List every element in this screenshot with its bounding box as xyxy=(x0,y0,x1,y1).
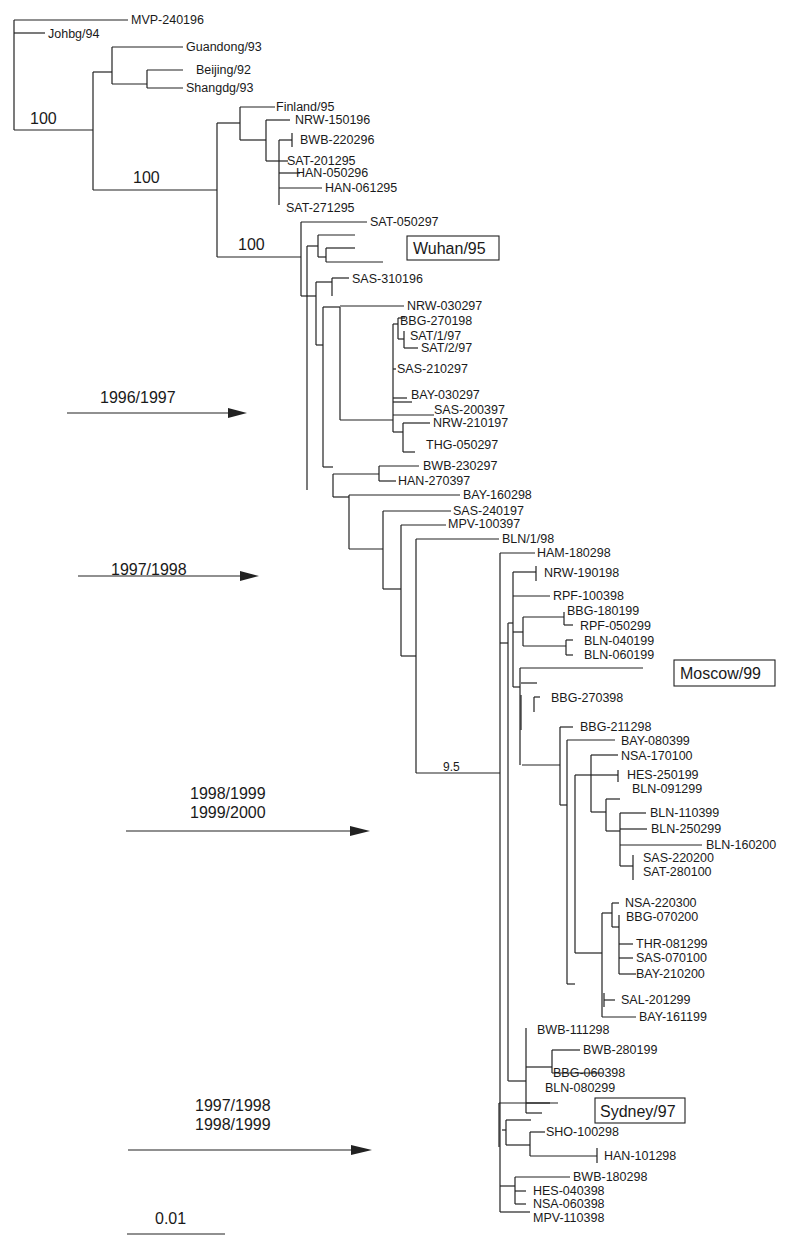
svg-text:BLN-080299: BLN-080299 xyxy=(545,1081,615,1095)
svg-text:Moscow/99: Moscow/99 xyxy=(680,665,761,682)
svg-text:BWB-220296: BWB-220296 xyxy=(300,133,374,147)
svg-text:Shangdg/93: Shangdg/93 xyxy=(186,81,253,95)
svg-text:BBG-180199: BBG-180199 xyxy=(567,604,639,618)
svg-text:BLN/1/98: BLN/1/98 xyxy=(502,532,554,546)
svg-text:BWB-230297: BWB-230297 xyxy=(423,459,497,473)
svg-text:BBG-070200: BBG-070200 xyxy=(626,910,698,924)
svg-text:SAS-220200: SAS-220200 xyxy=(643,851,714,865)
svg-text:BBG-270198: BBG-270198 xyxy=(400,314,472,328)
svg-text:BWB-111298: BWB-111298 xyxy=(537,1023,610,1037)
svg-text:BLN-091299: BLN-091299 xyxy=(632,782,702,796)
svg-text:SAL-201299: SAL-201299 xyxy=(621,993,691,1007)
svg-text:MPV-100397: MPV-100397 xyxy=(448,517,520,531)
svg-text:BLN-040199: BLN-040199 xyxy=(584,634,654,648)
season-arrow-1997-1998: 1997/1998 xyxy=(78,561,259,581)
svg-text:Sydney/97: Sydney/97 xyxy=(600,1103,676,1120)
svg-text:Guandong/93: Guandong/93 xyxy=(186,40,262,54)
svg-text:BWB-280199: BWB-280199 xyxy=(583,1043,657,1057)
svg-text:SAS-070100: SAS-070100 xyxy=(636,951,707,965)
svg-text:RPF-100398: RPF-100398 xyxy=(553,589,624,603)
svg-text:BBG-060398: BBG-060398 xyxy=(553,1066,625,1080)
svg-text:NSA-060398: NSA-060398 xyxy=(533,1197,605,1211)
svg-text:HES-040398: HES-040398 xyxy=(533,1184,605,1198)
svg-text:BAY-030297: BAY-030297 xyxy=(411,388,480,402)
svg-text:SAT-271295: SAT-271295 xyxy=(286,201,355,215)
svg-text:BWB-180298: BWB-180298 xyxy=(573,1170,647,1184)
svg-text:Finland/95: Finland/95 xyxy=(276,100,334,114)
svg-text:1996/1997: 1996/1997 xyxy=(100,389,176,406)
svg-text:HAN-101298: HAN-101298 xyxy=(604,1149,676,1163)
phylogenetic-tree: 100 100 100 9.5 MVP-240196 Johbg/94 Guan… xyxy=(0,0,803,1248)
bootstrap-value: 100 xyxy=(30,110,57,127)
scale-bar: 0.01 xyxy=(127,1210,225,1234)
bootstrap-value: 9.5 xyxy=(443,760,460,774)
svg-text:NSA-170100: NSA-170100 xyxy=(621,749,693,763)
svg-text:0.01: 0.01 xyxy=(155,1210,186,1227)
svg-text:1997/1998: 1997/1998 xyxy=(195,1097,271,1114)
bootstrap-value: 100 xyxy=(238,236,265,253)
svg-text:SAT/2/97: SAT/2/97 xyxy=(421,341,472,355)
svg-text:1998/1999: 1998/1999 xyxy=(195,1116,271,1133)
svg-text:HAN-050296: HAN-050296 xyxy=(296,166,368,180)
svg-text:BAY-160298: BAY-160298 xyxy=(463,488,532,502)
svg-text:BAY-080399: BAY-080399 xyxy=(621,734,690,748)
svg-text:SAS-200397: SAS-200397 xyxy=(434,403,505,417)
svg-text:BLN-060199: BLN-060199 xyxy=(584,648,654,662)
season-arrow-1996-1997: 1996/1997 xyxy=(67,389,247,418)
svg-text:HAN-270397: HAN-270397 xyxy=(398,474,470,488)
reference-strain-sydney: Sydney/97 xyxy=(595,1098,685,1123)
svg-text:BBG-270398: BBG-270398 xyxy=(551,691,623,705)
svg-text:Wuhan/95: Wuhan/95 xyxy=(413,240,486,257)
svg-text:BAY-210200: BAY-210200 xyxy=(636,967,705,981)
leaf-labels: MVP-240196 Johbg/94 Guandong/93 Beijing/… xyxy=(48,13,776,1225)
svg-text:BAY-161199: BAY-161199 xyxy=(639,1010,707,1024)
svg-text:1998/1999: 1998/1999 xyxy=(190,785,266,802)
svg-text:NRW-190198: NRW-190198 xyxy=(544,566,619,580)
svg-text:SAT-280100: SAT-280100 xyxy=(643,865,712,879)
svg-text:HES-250199: HES-250199 xyxy=(627,768,699,782)
svg-text:SAS-210297: SAS-210297 xyxy=(397,362,468,376)
svg-text:SHO-100298: SHO-100298 xyxy=(546,1125,619,1139)
svg-text:1999/2000: 1999/2000 xyxy=(190,804,266,821)
svg-text:BLN-110399: BLN-110399 xyxy=(650,806,719,820)
svg-text:HAM-180298: HAM-180298 xyxy=(537,546,611,560)
svg-text:SAS-310196: SAS-310196 xyxy=(352,272,423,286)
svg-text:BLN-250299: BLN-250299 xyxy=(651,822,721,836)
reference-strain-wuhan: Wuhan/95 xyxy=(407,236,499,260)
svg-text:HAN-061295: HAN-061295 xyxy=(325,181,397,195)
season-arrow-1997-1999: 1997/1998 1998/1999 xyxy=(128,1097,372,1155)
svg-text:THG-050297: THG-050297 xyxy=(426,438,498,452)
svg-text:Johbg/94: Johbg/94 xyxy=(48,27,99,41)
svg-text:THR-081299: THR-081299 xyxy=(636,937,708,951)
svg-text:BBG-211298: BBG-211298 xyxy=(580,720,651,734)
svg-text:BLN-160200: BLN-160200 xyxy=(706,838,776,852)
svg-text:SAS-240197: SAS-240197 xyxy=(453,504,524,518)
svg-text:NRW-150196: NRW-150196 xyxy=(295,113,370,127)
svg-text:Beijing/92: Beijing/92 xyxy=(196,63,251,77)
svg-text:MVP-240196: MVP-240196 xyxy=(131,13,204,27)
reference-strain-moscow: Moscow/99 xyxy=(674,660,775,686)
svg-text:SAT-050297: SAT-050297 xyxy=(370,215,439,229)
season-arrow-1998-2000: 1998/1999 1999/2000 xyxy=(126,785,370,836)
svg-text:MPV-110398: MPV-110398 xyxy=(533,1211,604,1225)
svg-text:NSA-220300: NSA-220300 xyxy=(625,896,697,910)
bootstrap-value: 100 xyxy=(133,169,160,186)
svg-text:RPF-050299: RPF-050299 xyxy=(580,619,651,633)
svg-text:NRW-210197: NRW-210197 xyxy=(433,416,508,430)
svg-text:NRW-030297: NRW-030297 xyxy=(407,299,482,313)
